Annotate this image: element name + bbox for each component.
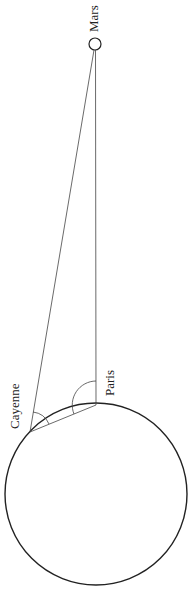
label-paris: Paris (102, 370, 117, 396)
angle-arc-paris (72, 381, 96, 414)
mars-circle (89, 38, 101, 50)
line-mars-paris (96, 50, 97, 405)
line-mars-cayenne (30, 50, 94, 432)
earth-circle (5, 403, 187, 585)
label-cayenne: Cayenne (7, 383, 22, 429)
label-mars: Mars (86, 5, 101, 32)
diagram-canvas: Mars Paris Cayenne (0, 0, 192, 606)
